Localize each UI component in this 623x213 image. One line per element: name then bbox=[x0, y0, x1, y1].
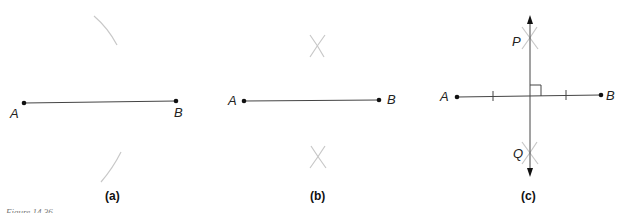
label-p: P bbox=[512, 34, 521, 49]
panel-c: A B P Q (c) bbox=[439, 15, 615, 203]
figure-canvas: A B (a) A B (b) A B P Q (c) Figure bbox=[0, 0, 623, 213]
label-b: B bbox=[606, 88, 615, 103]
point-b bbox=[377, 98, 382, 103]
segment-ab bbox=[457, 95, 601, 97]
arc-lower-2 bbox=[310, 146, 325, 168]
arc-lower bbox=[101, 152, 121, 182]
arrow-down-icon bbox=[527, 168, 533, 177]
point-b bbox=[174, 99, 179, 104]
panel-caption-c: (c) bbox=[521, 189, 536, 203]
label-a: A bbox=[9, 106, 19, 121]
panel-caption-b: (b) bbox=[310, 189, 325, 203]
label-b: B bbox=[174, 105, 183, 120]
panel-a: A B (a) bbox=[9, 16, 183, 203]
point-a bbox=[242, 99, 247, 104]
panel-b: A B (b) bbox=[227, 35, 396, 203]
panel-caption-a: (a) bbox=[105, 189, 120, 203]
arc-lower-1 bbox=[311, 146, 326, 168]
figure-caption: Figure 14.36 bbox=[5, 207, 53, 213]
label-a: A bbox=[227, 93, 237, 108]
point-b bbox=[599, 93, 604, 98]
point-a bbox=[455, 95, 460, 100]
segment-ab bbox=[244, 100, 379, 101]
label-b: B bbox=[387, 92, 396, 107]
arc-upper bbox=[94, 16, 117, 45]
point-a bbox=[22, 101, 27, 106]
label-a: A bbox=[439, 89, 449, 104]
segment-ab bbox=[24, 101, 176, 103]
right-angle-mark bbox=[530, 85, 541, 96]
arrow-up-icon bbox=[527, 15, 533, 24]
label-q: Q bbox=[513, 146, 523, 161]
